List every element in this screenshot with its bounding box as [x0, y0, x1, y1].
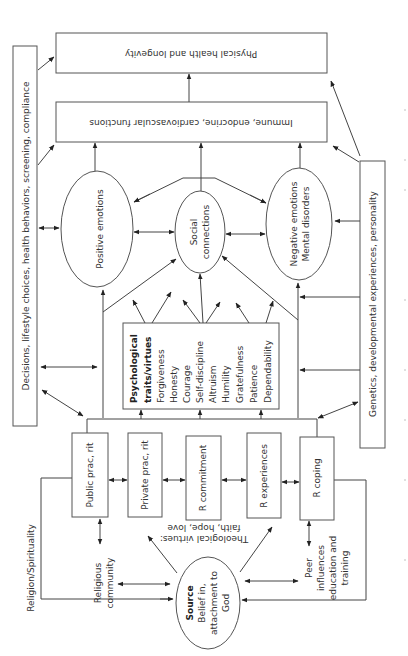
arrow-trait-social	[200, 274, 203, 323]
arrow-genetics-coping	[318, 402, 358, 418]
negative-emotions-ellipse: Negative emotions Mental disorders	[266, 168, 332, 280]
arrow-decisions-public	[42, 390, 83, 416]
arrow-genetics-to-physiology	[333, 146, 359, 162]
genetics-box: Genetics, developmental experiences, per…	[360, 161, 385, 448]
negative-label-2: Mental disorders	[301, 186, 311, 261]
arrow-trait	[133, 300, 145, 323]
peer-label-4: training	[340, 551, 350, 586]
arrow-fork-positive	[134, 194, 150, 202]
peer-label-1: Peer	[304, 558, 314, 578]
trait-item: Forgiveness	[156, 349, 166, 403]
religion-frame-label: Religion/Spirituality	[26, 524, 36, 612]
trait-item: Dependability	[263, 340, 273, 403]
trait-item: Humility	[221, 365, 231, 403]
arrow-trait	[152, 292, 171, 323]
religious-community-label-2: community	[105, 557, 115, 608]
social-label-1: Social	[189, 219, 199, 246]
theological-virtues-1: Theological virtues:	[160, 534, 249, 544]
trait-item: Honesty	[169, 365, 179, 403]
arrow-trait	[266, 301, 273, 323]
private-practice-box: Private prac, rit	[128, 433, 162, 517]
religious-community-label-1: Religious	[93, 562, 103, 603]
physical-health-box: Physical health and longevity	[56, 33, 327, 73]
peer-label-3: education and	[328, 536, 338, 600]
trait-item: Altruism	[208, 365, 218, 403]
positive-emotions-label: Positive emotions	[95, 189, 105, 269]
negative-label-1: Negative emotions	[289, 181, 299, 266]
positive-emotions-ellipse: Positive emotions	[61, 171, 133, 287]
arrow-trait	[183, 300, 200, 323]
experiences-label: R experiences	[259, 444, 269, 508]
theological-virtues-2: faith, hope, love	[167, 523, 241, 533]
arrow-trait	[206, 302, 220, 323]
trait-item: Self-discipline	[195, 341, 205, 403]
traits-title-2: traits/virtues	[143, 337, 153, 403]
public-practice-box: Public prac, rit	[72, 433, 108, 517]
trait-item: Gratefulness	[235, 345, 245, 403]
genetics-label: Genetics, developmental experiences, per…	[368, 190, 378, 417]
source-title: Source	[185, 586, 195, 621]
social-connections-ellipse: Social connections	[175, 191, 225, 273]
source-line-3: God	[221, 594, 231, 612]
arrow-trait	[236, 303, 249, 323]
source-line-1: Belief in,	[197, 583, 207, 622]
decisions-box: Decisions, lifestyle choices, health beh…	[13, 46, 37, 426]
arrow-fork-negative	[250, 195, 266, 203]
source-line-2: attachment to	[209, 570, 219, 635]
coping-label: R coping	[312, 458, 322, 497]
peer-label-2: influences	[316, 545, 326, 591]
decisions-label: Decisions, lifestyle choices, health beh…	[21, 81, 31, 390]
trait-item: Courage	[182, 365, 192, 403]
arrow-decisions-to-physiology	[38, 145, 54, 165]
arrow-decisions-to-health	[38, 57, 54, 70]
social-label-2: connections	[201, 205, 211, 260]
faint-caption-marks	[404, 109, 406, 561]
arrow-genetics-to-health	[331, 81, 360, 156]
source-ellipse: Source Belief in, attachment to God	[176, 557, 240, 649]
physical-health-label: Physical health and longevity	[124, 49, 257, 59]
diagram-canvas: Physical health and longevity Immune, en…	[0, 0, 408, 656]
commitment-label: R commitment	[198, 444, 208, 511]
traits-title-1: Psychological	[129, 334, 139, 403]
coping-box: R coping	[300, 437, 334, 520]
physiology-box: Immune, endocrine, cardiovascular functi…	[56, 102, 327, 142]
trait-item: Patience	[249, 364, 259, 403]
physiology-label: Immune, endocrine, cardiovascular functi…	[89, 118, 293, 128]
experiences-box: R experiences	[247, 433, 281, 518]
traits-box: Psychological traits/virtues Forgiveness…	[123, 323, 279, 409]
private-practice-label: Private prac, rit	[140, 440, 150, 510]
public-practice-label: Public prac, rit	[85, 442, 95, 507]
commitment-box: R commitment	[186, 436, 221, 520]
